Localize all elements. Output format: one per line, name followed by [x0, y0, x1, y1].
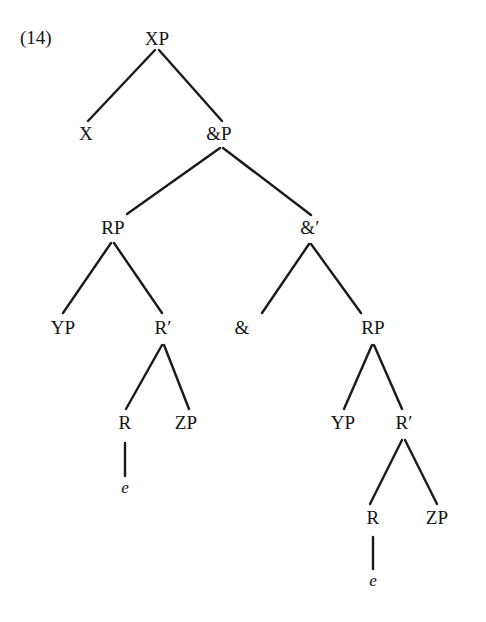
tree-node-r-left: R	[119, 413, 132, 432]
tree-node-rp-right: RP	[361, 318, 385, 337]
tree-node-zp-left: ZP	[175, 413, 198, 432]
tree-edge-rbar-right-to-r	[370, 440, 402, 504]
tree-edge-andp-to-andbar	[223, 148, 311, 215]
tree-edge-rbar-left-to-r	[126, 345, 162, 409]
tree-node-r-right: R	[367, 508, 380, 527]
tree-edge-rbar-left-to-zp	[164, 345, 189, 409]
tree-edge-andbar-to-rp-right	[311, 244, 361, 313]
syntax-tree-figure: (14) XPX&PRP&′YPR′&RPRZPYPR′eRZPe	[0, 0, 486, 622]
tree-edge-rp-right-to-rbar	[374, 345, 402, 409]
tree-edge-layer	[0, 0, 486, 622]
tree-node-e-right: e	[369, 572, 377, 589]
tree-node-rp-left: RP	[101, 218, 125, 237]
tree-node-x: X	[79, 124, 93, 143]
tree-node-yp-right: YP	[331, 413, 356, 432]
tree-node-yp-left: YP	[51, 318, 76, 337]
tree-node-e-left: e	[121, 479, 129, 496]
tree-node-and: &	[235, 318, 250, 337]
tree-edge-andbar-to-and	[262, 244, 309, 313]
tree-node-rbar-right: R′	[395, 413, 412, 432]
tree-node-xp: XP	[145, 29, 170, 48]
tree-edge-rp-left-to-yp	[63, 243, 111, 313]
tree-edge-rp-right-to-yp	[344, 345, 372, 409]
tree-edge-rbar-right-to-zp	[405, 440, 437, 504]
tree-node-zp-right: ZP	[426, 508, 449, 527]
tree-edge-rp-left-to-rbar	[114, 243, 162, 313]
tree-edge-andp-to-rp-left	[127, 148, 220, 214]
tree-node-andbar: &′	[300, 218, 319, 237]
tree-edge-xp-to-x	[88, 50, 155, 121]
tree-node-andp: &P	[206, 124, 232, 143]
tree-edge-xp-to-andp	[159, 50, 222, 121]
tree-node-rbar-left: R′	[154, 318, 171, 337]
